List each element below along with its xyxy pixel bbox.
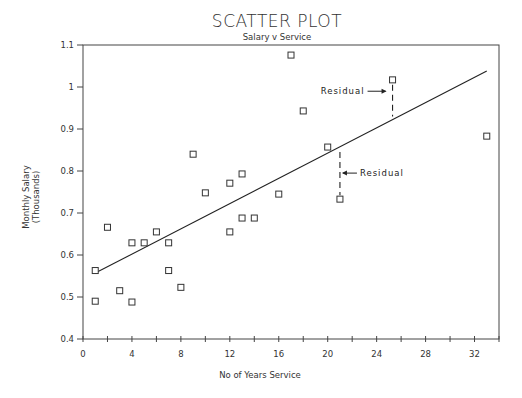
y-tick-label: 1 xyxy=(69,82,74,92)
y-tick-label: 1.1 xyxy=(60,40,74,50)
data-point-square xyxy=(202,190,208,196)
data-point-square xyxy=(92,268,98,274)
data-point-square xyxy=(129,240,135,246)
arrowhead-icon xyxy=(342,171,347,176)
arrowhead-icon xyxy=(382,89,387,94)
y-axis-label-line1: Monthly Salary xyxy=(21,165,31,228)
data-point-square xyxy=(166,268,172,274)
y-tick-label: 0.7 xyxy=(60,208,74,218)
data-point-square xyxy=(166,240,172,246)
data-point-square xyxy=(300,108,306,114)
x-axis-label: No of Years Service xyxy=(219,370,301,380)
data-point-square xyxy=(117,288,123,294)
x-tick-label: 20 xyxy=(322,349,333,359)
x-tick-label: 32 xyxy=(469,349,480,359)
data-point-square xyxy=(239,215,245,221)
data-points xyxy=(92,52,490,305)
data-point-square xyxy=(484,133,490,139)
plot-frame xyxy=(83,45,499,339)
y-axis-label: Monthly Salary (Thousands) xyxy=(21,165,41,228)
y-tick-label: 0.8 xyxy=(60,166,74,176)
residual-label: Residual xyxy=(360,168,404,178)
y-tick-label: 0.4 xyxy=(60,334,74,344)
chart-title: SCATTER PLOT xyxy=(212,11,342,31)
x-tick-label: 12 xyxy=(224,349,235,359)
data-point-square xyxy=(92,298,98,304)
x-tick-label: 0 xyxy=(80,349,85,359)
data-point-square xyxy=(178,284,184,290)
data-point-square xyxy=(390,77,396,83)
data-point-square xyxy=(288,52,294,58)
y-axis-label-line2: (Thousands) xyxy=(31,171,41,224)
data-point-square xyxy=(227,229,233,235)
data-point-square xyxy=(129,299,135,305)
data-point-square xyxy=(276,191,282,197)
data-point-square xyxy=(141,240,147,246)
residual-annotations: ResidualResidual xyxy=(321,85,404,195)
x-tick-label: 16 xyxy=(273,349,284,359)
y-tick-label: 0.5 xyxy=(60,292,74,302)
data-point-square xyxy=(190,151,196,157)
data-point-square xyxy=(325,144,331,150)
scatter-chart: SCATTER PLOT Salary v Service Monthly Sa… xyxy=(0,0,522,398)
y-tick-label: 0.6 xyxy=(60,250,74,260)
chart-subtitle: Salary v Service xyxy=(243,32,312,42)
data-point-square xyxy=(227,180,233,186)
data-point-square xyxy=(239,171,245,177)
x-tick-label: 24 xyxy=(371,349,382,359)
y-tick-label: 0.9 xyxy=(60,124,74,134)
x-tick-label: 4 xyxy=(129,349,134,359)
x-tick-label: 8 xyxy=(178,349,183,359)
regression-line xyxy=(95,71,487,273)
data-point-square xyxy=(104,224,110,230)
y-axis-ticks: 0.40.50.60.70.80.911.1 xyxy=(60,40,83,344)
x-tick-label: 28 xyxy=(420,349,431,359)
data-point-square xyxy=(251,215,257,221)
data-point-square xyxy=(153,229,159,235)
residual-label: Residual xyxy=(321,86,365,96)
data-point-square xyxy=(337,196,343,202)
